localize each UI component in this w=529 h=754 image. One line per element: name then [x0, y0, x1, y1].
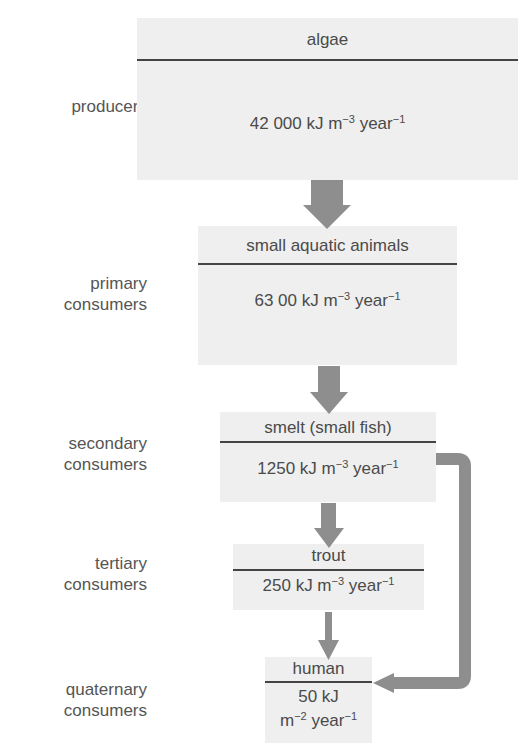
down-arrow-icon: [310, 366, 348, 414]
down-arrow-icon: [318, 612, 339, 660]
bent-arrow-icon: [392, 459, 465, 683]
down-arrow-icon: [314, 503, 344, 548]
down-arrow-icon: [303, 180, 351, 229]
energy-flow-arrows: [0, 0, 529, 754]
left-arrowhead-icon: [373, 673, 394, 693]
